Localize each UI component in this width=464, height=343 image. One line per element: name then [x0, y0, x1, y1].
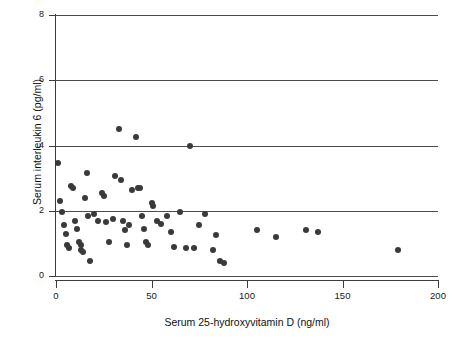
data-point: [210, 247, 216, 253]
data-point: [303, 227, 309, 233]
data-point: [158, 221, 164, 227]
gridline-y-0: [56, 276, 438, 277]
plot-area: [56, 15, 438, 276]
data-point: [120, 218, 126, 224]
data-point: [84, 170, 90, 176]
data-point: [118, 177, 124, 183]
data-point: [141, 226, 147, 232]
x-tick-label-150: 150: [323, 291, 363, 301]
x-tick-mark-100: [247, 281, 248, 288]
data-point: [124, 242, 130, 248]
gridline-y-2: [56, 211, 438, 212]
data-point: [80, 249, 86, 255]
data-point: [202, 211, 208, 217]
data-point: [183, 245, 189, 251]
data-point: [196, 222, 202, 228]
data-point: [122, 227, 128, 233]
data-point: [126, 222, 132, 228]
data-point: [221, 260, 227, 266]
data-point: [74, 226, 80, 232]
data-point: [91, 211, 97, 217]
data-point: [150, 203, 156, 209]
data-point: [59, 209, 65, 215]
data-point: [103, 219, 109, 225]
x-tick-mark-0: [56, 281, 57, 288]
data-point: [213, 232, 219, 238]
y-tick-mark-0: [49, 276, 56, 277]
data-point: [55, 160, 61, 166]
y-tick-mark-6: [49, 80, 56, 81]
data-point: [70, 185, 76, 191]
data-point: [57, 198, 63, 204]
x-axis-title: Serum 25-hydroxyvitamin D (ng/ml): [56, 316, 438, 328]
y-tick-label-8: 8: [24, 10, 44, 19]
y-axis-title: Serum interleukin 6 (pg/ml): [31, 42, 43, 242]
data-point: [187, 143, 193, 149]
data-point: [164, 213, 170, 219]
x-tick-label-100: 100: [227, 291, 267, 301]
data-point: [66, 245, 72, 251]
data-point: [110, 216, 116, 222]
data-point: [145, 242, 151, 248]
data-point: [395, 247, 401, 253]
x-tick-mark-150: [343, 281, 344, 288]
x-tick-label-200: 200: [418, 291, 458, 301]
data-point: [139, 213, 145, 219]
data-point: [315, 229, 321, 235]
x-tick-label-0: 0: [36, 291, 76, 301]
gridline-y-8: [56, 15, 438, 16]
scatter-plot-figure: 02468 050100150200 Serum 25-hydroxyvitam…: [0, 0, 464, 343]
y-tick-mark-8: [49, 15, 56, 16]
data-point: [116, 126, 122, 132]
data-point: [95, 218, 101, 224]
data-point: [101, 193, 107, 199]
y-tick-label-0: 0: [24, 271, 44, 280]
data-point: [171, 244, 177, 250]
gridline-y-4: [56, 146, 438, 147]
data-point: [82, 195, 88, 201]
x-tick-mark-50: [152, 281, 153, 288]
data-point: [63, 231, 69, 237]
data-point: [273, 234, 279, 240]
y-tick-mark-4: [49, 146, 56, 147]
data-point: [72, 218, 78, 224]
data-point: [106, 239, 112, 245]
y-tick-mark-2: [49, 211, 56, 212]
data-point: [87, 258, 93, 264]
data-point: [168, 229, 174, 235]
x-tick-label-50: 50: [132, 291, 172, 301]
data-point: [133, 134, 139, 140]
data-point: [61, 222, 67, 228]
data-point: [191, 245, 197, 251]
data-point: [137, 185, 143, 191]
data-point: [254, 227, 260, 233]
data-point: [177, 209, 183, 215]
x-tick-mark-200: [438, 281, 439, 288]
gridline-y-6: [56, 80, 438, 81]
